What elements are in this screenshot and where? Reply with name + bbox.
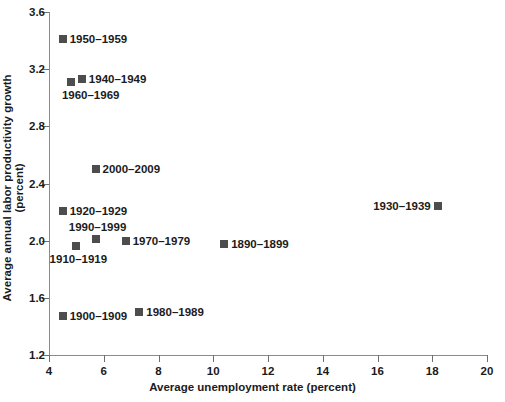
x-tick-label: 18 [426,364,439,378]
x-tick-mark [268,355,269,362]
data-point[interactable] [434,202,442,210]
y-tick-label: 2.0 [29,233,45,249]
data-point-label: 1910–1919 [50,253,108,266]
x-tick-label: 12 [262,364,275,378]
data-point[interactable] [59,312,67,320]
data-point-label: 1890–1899 [231,238,289,251]
data-point-label: 1970–1979 [133,235,191,248]
data-point[interactable] [59,207,67,215]
data-point-label: 1930–1939 [373,200,431,213]
y-tick-label: 2.4 [29,176,45,192]
data-point-label: 1990–1999 [69,221,127,234]
y-tick-label: 3.6 [29,4,45,20]
data-point-label: 1920–1929 [70,205,128,218]
data-point[interactable] [135,308,143,316]
data-point[interactable] [220,240,228,248]
x-tick-mark [487,355,488,362]
x-tick-mark [213,355,214,362]
data-point[interactable] [67,78,75,86]
data-point[interactable] [72,242,80,250]
y-tick-label: 2.8 [29,118,45,134]
data-point-label: 1950–1959 [70,33,128,46]
plot-area [49,12,487,355]
x-tick-label: 6 [101,364,107,378]
data-point[interactable] [92,235,100,243]
x-axis-title: Average unemployment rate (percent) [0,381,505,393]
x-tick-label: 20 [481,364,494,378]
data-point-label: 1940–1949 [89,73,147,86]
data-point[interactable] [78,75,86,83]
data-point[interactable] [122,237,130,245]
x-tick-mark [378,355,379,362]
scatter-chart: 1.21.62.02.42.83.23.6 468101214161820 Av… [0,0,505,402]
x-tick-mark [323,355,324,362]
data-point-label: 1960–1969 [62,89,120,102]
data-point-label: 2000–2009 [103,163,161,176]
x-tick-label: 8 [155,364,161,378]
y-tick-label: 1.6 [29,290,45,306]
data-point-label: 1980–1989 [146,306,204,319]
x-tick-mark [49,355,50,362]
data-point-label: 1900–1909 [70,310,128,323]
data-point[interactable] [59,35,67,43]
data-point[interactable] [92,165,100,173]
x-tick-mark [104,355,105,362]
x-tick-label: 10 [207,364,220,378]
y-axis-title: Average annual labor productivity growth… [1,68,25,308]
y-tick-label: 3.2 [29,61,45,77]
x-tick-label: 14 [316,364,329,378]
x-tick-mark [159,355,160,362]
x-tick-label: 4 [46,364,52,378]
x-tick-label: 16 [371,364,384,378]
y-tick-label: 1.2 [29,347,45,363]
x-tick-mark [432,355,433,362]
